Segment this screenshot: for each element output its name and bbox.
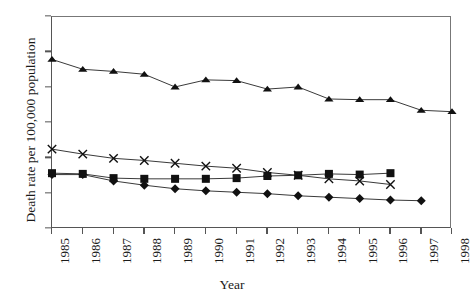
x-tick-mark bbox=[143, 228, 144, 234]
data-point-triangle bbox=[78, 66, 87, 72]
x-tick-label: 1991 bbox=[242, 238, 258, 264]
data-point-diamond bbox=[171, 184, 180, 193]
data-point-diamond bbox=[232, 188, 241, 197]
data-point-diamond bbox=[355, 194, 364, 203]
x-tick-label: 1998 bbox=[457, 238, 473, 264]
x-tick-label: 1997 bbox=[426, 238, 442, 264]
data-point-triangle bbox=[417, 107, 426, 113]
x-tick-mark bbox=[297, 228, 298, 234]
series-cross bbox=[48, 145, 395, 189]
data-point-square bbox=[171, 175, 179, 183]
x-tick-label: 1995 bbox=[365, 238, 381, 264]
x-tick-label: 1992 bbox=[272, 238, 288, 264]
data-point-triangle bbox=[201, 77, 210, 83]
x-tick-label: 1988 bbox=[149, 238, 165, 264]
x-tick-mark bbox=[266, 228, 267, 234]
data-point-diamond bbox=[386, 196, 395, 205]
y-axis-title: Death rate per 100,000 population bbox=[23, 15, 39, 245]
x-tick-mark bbox=[451, 228, 452, 234]
data-point-square bbox=[356, 171, 364, 179]
series-line bbox=[52, 173, 390, 179]
plot-area bbox=[51, 16, 451, 228]
clipped-title-strip bbox=[150, 0, 460, 9]
data-point-square bbox=[386, 169, 394, 177]
data-point-square bbox=[294, 171, 302, 179]
data-point-square bbox=[325, 170, 333, 178]
data-point-diamond bbox=[294, 191, 303, 200]
x-tick-label: 1987 bbox=[119, 238, 135, 264]
x-tick-mark bbox=[328, 228, 329, 234]
x-tick-label: 1990 bbox=[211, 238, 227, 264]
x-tick-mark bbox=[113, 228, 114, 234]
x-tick-label: 1986 bbox=[88, 238, 104, 264]
data-point-diamond bbox=[263, 189, 272, 198]
x-tick-mark bbox=[359, 228, 360, 234]
x-tick-mark bbox=[174, 228, 175, 234]
x-tick-mark bbox=[205, 228, 206, 234]
data-point-square bbox=[202, 175, 210, 183]
x-tick-mark bbox=[236, 228, 237, 234]
x-tick-mark bbox=[420, 228, 421, 234]
data-point-diamond bbox=[417, 196, 426, 205]
series-square bbox=[48, 169, 394, 183]
series-triangle bbox=[47, 56, 456, 114]
x-tick-label: 1996 bbox=[395, 238, 411, 264]
data-point-diamond bbox=[201, 186, 210, 195]
data-point-triangle bbox=[294, 84, 303, 90]
series-layer bbox=[52, 17, 452, 229]
x-tick-label: 1985 bbox=[57, 238, 73, 264]
data-point-square bbox=[263, 172, 271, 180]
x-tick-label: 1993 bbox=[303, 238, 319, 264]
series-line bbox=[52, 59, 452, 111]
x-tick-mark bbox=[82, 228, 83, 234]
x-axis-title: Year bbox=[0, 277, 464, 293]
x-tick-label: 1989 bbox=[180, 238, 196, 264]
data-point-square bbox=[233, 174, 241, 182]
x-tick-label: 1994 bbox=[334, 238, 350, 264]
data-point-diamond bbox=[324, 193, 333, 202]
x-tick-mark bbox=[51, 228, 52, 234]
x-tick-mark bbox=[389, 228, 390, 234]
data-point-triangle bbox=[324, 96, 333, 102]
